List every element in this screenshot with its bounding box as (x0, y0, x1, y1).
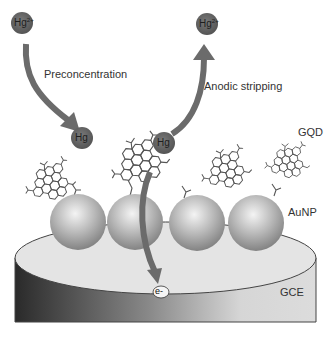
hg-symbol: Hg (14, 17, 27, 28)
hg-symbol: Hg (75, 132, 88, 143)
preconcentration-arrow (26, 44, 80, 132)
charge-superscript: 2+ (212, 18, 219, 24)
anodic-stripping-label: Anodic stripping (204, 80, 282, 92)
hg-label-left: Hg (75, 132, 88, 143)
aunp-sphere-2 (107, 194, 163, 250)
electron-label: e- (155, 286, 163, 296)
linkers (72, 180, 281, 198)
gqd-molecule-3 (194, 142, 255, 196)
aunp-label: AuNP (288, 206, 317, 218)
hg2-label-right: Hg2+ (199, 18, 219, 29)
aunp-sphere-1 (50, 194, 106, 250)
gce-label: GCE (280, 286, 304, 298)
hg-symbol: Hg (157, 137, 170, 148)
gqd-molecule-4 (261, 140, 311, 182)
hg-symbol: Hg (199, 18, 212, 29)
hg2-label-left: Hg2+ (14, 17, 34, 28)
aunp-sphere-3 (169, 195, 225, 251)
preconcentration-label: Preconcentration (44, 68, 127, 80)
hg-label-right: Hg (157, 137, 170, 148)
aunp-sphere-4 (228, 195, 284, 251)
charge-superscript: 2+ (27, 17, 34, 23)
gqd-label: GQD (298, 126, 323, 138)
